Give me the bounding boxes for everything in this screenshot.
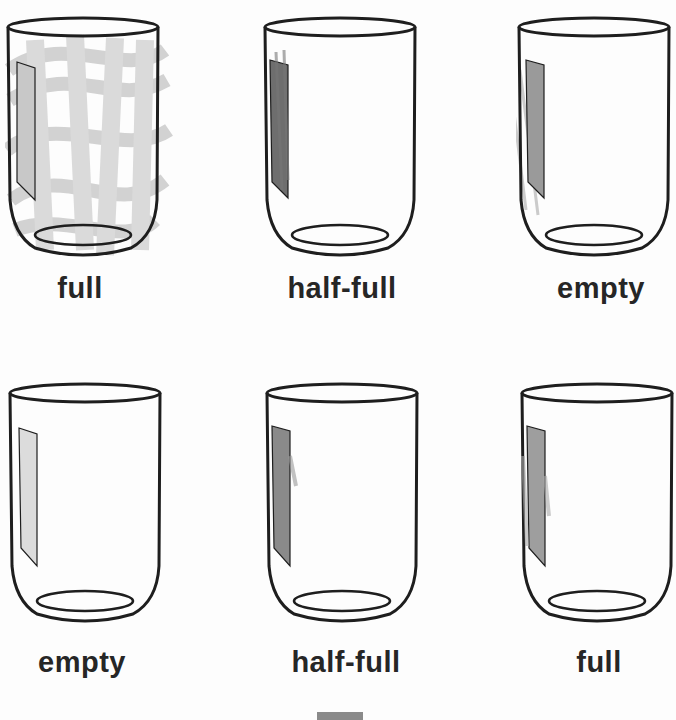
- glass-card-half-full-top: half-full: [262, 10, 432, 340]
- glass-icon: [264, 376, 434, 636]
- glass-label: half-full: [261, 646, 431, 679]
- glass-icon: [262, 10, 432, 270]
- glass-card-full-top: full: [5, 10, 175, 340]
- glass-icon: [516, 10, 676, 270]
- scan-artifact-tab: [317, 712, 363, 720]
- glass-label: full: [0, 272, 165, 305]
- glass-icon: [7, 376, 177, 636]
- glass-card-half-full-bottom: half-full: [264, 376, 434, 706]
- glass-icon: [519, 376, 676, 636]
- glass-label: empty: [0, 646, 167, 679]
- glass-card-full-bottom: full: [519, 376, 676, 706]
- glass-icon: [5, 10, 175, 270]
- glass-card-empty-top: empty: [516, 10, 676, 340]
- glass-label: full: [514, 646, 676, 679]
- glass-label: empty: [516, 272, 676, 305]
- glass-label: half-full: [257, 272, 427, 305]
- glass-card-empty-bottom: empty: [7, 376, 177, 706]
